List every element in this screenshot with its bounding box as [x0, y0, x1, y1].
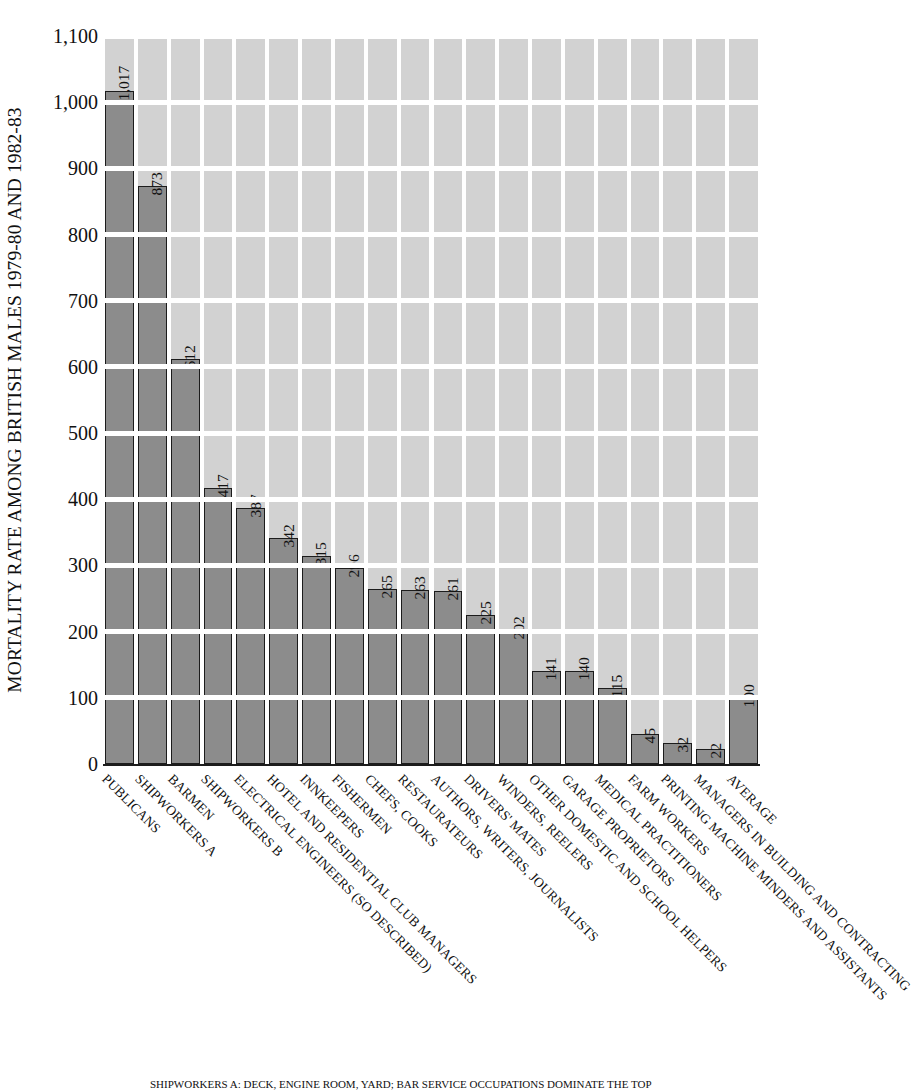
bar [434, 591, 463, 764]
plot-area: 1,01787361241738734231529626526326122520… [103, 36, 760, 764]
bar [598, 688, 627, 764]
bar-value-label: 115 [609, 675, 625, 698]
y-tick-label: 400 [68, 489, 98, 509]
bar-value-label: 141 [543, 657, 559, 680]
bar-value-label: 225 [477, 601, 493, 624]
bar [565, 671, 594, 764]
chart-caption: SHIPWORKERS A: DECK, ENGINE ROOM, YARD; … [150, 1078, 750, 1090]
bar-value-label: 100 [740, 684, 756, 707]
y-axis-title: MORTALITY RATE AMONG BRITISH MALES 1979-… [0, 36, 30, 764]
bar-value-label: 342 [280, 524, 296, 547]
bar-value-label: 873 [149, 172, 165, 195]
y-tick-label: 1,100 [53, 26, 98, 46]
y-axis-title-text: MORTALITY RATE AMONG BRITISH MALES 1979-… [4, 107, 26, 692]
bar-value-label: 296 [346, 554, 362, 577]
bar-value-label: 315 [313, 542, 329, 565]
y-tick-label: 800 [68, 225, 98, 245]
bar-value-label: 263 [412, 576, 428, 599]
bar-value-label: 261 [444, 578, 460, 601]
bar-value-label: 22 [707, 743, 723, 759]
y-tick-label: 700 [68, 291, 98, 311]
bar-value-label: 417 [214, 474, 230, 497]
bar-value-label: 140 [576, 658, 592, 681]
bar [401, 590, 430, 764]
bar-value-label: 387 [247, 494, 263, 517]
y-tick-label: 300 [68, 555, 98, 575]
bar [729, 698, 758, 764]
bar-value-label: 612 [182, 345, 198, 368]
category-label: PRINTING MACHINE MINDERS AND ASSISTANTS [658, 772, 889, 1003]
bar [532, 671, 561, 764]
y-tick-label: 600 [68, 357, 98, 377]
bar [269, 538, 298, 764]
bar [368, 589, 397, 764]
y-tick-label: 200 [68, 622, 98, 642]
bar [204, 488, 233, 764]
bar [138, 186, 167, 764]
y-tick-label: 100 [68, 688, 98, 708]
bar [171, 359, 200, 764]
y-tick-label: 500 [68, 423, 98, 443]
bar [302, 556, 331, 764]
bar [335, 568, 364, 764]
bar [466, 615, 495, 764]
y-tick-label: 900 [68, 158, 98, 178]
bar [236, 508, 265, 764]
y-tick-label: 1,000 [53, 92, 98, 112]
bar-value-label: 202 [510, 617, 526, 640]
bar-value-label: 1,017 [116, 66, 132, 101]
bar-value-label: 45 [641, 728, 657, 744]
x-axis-category-labels: PUBLICANSSHIPWORKERS ABARMENSHIPWORKERS … [0, 764, 783, 1054]
bar-value-label: 265 [379, 575, 395, 598]
bar [499, 630, 528, 764]
bars-layer: 1,01787361241738734231529626526326122520… [103, 36, 760, 764]
bar-value-label: 32 [674, 737, 690, 753]
bar [105, 91, 134, 764]
